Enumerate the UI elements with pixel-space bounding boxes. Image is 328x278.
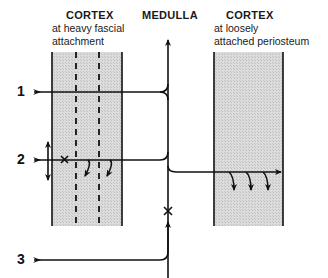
right-cortex-subtitle-2: attached periosteum <box>214 35 309 47</box>
right-cortex-subtitle-1: at loosely <box>214 22 258 34</box>
path-3-label: 3 <box>17 251 25 267</box>
medulla-title: MEDULLA <box>142 9 198 21</box>
right-cortex-block <box>214 52 283 226</box>
right-cortex-title: CORTEX <box>226 9 274 21</box>
path-1-label: 1 <box>17 83 25 99</box>
left-cortex-subtitle-2: attachment <box>52 35 104 47</box>
left-cortex-title: CORTEX <box>66 9 114 21</box>
left-cortex-block <box>52 52 122 226</box>
left-cortex-subtitle-1: at heavy fascial <box>52 22 124 34</box>
path-2-label: 2 <box>17 151 25 167</box>
